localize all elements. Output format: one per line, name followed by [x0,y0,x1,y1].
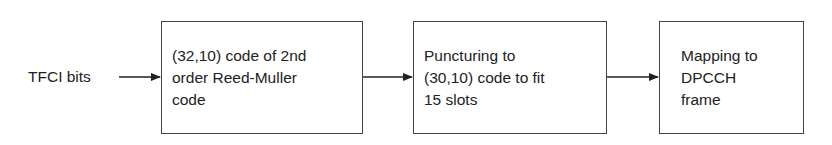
block-3-line-3: frame [681,89,758,111]
block-2-line-2: (30,10) code to fit [424,67,545,89]
block-3-line-2: DPCCH [681,67,758,89]
block-2-line-3: 15 slots [424,89,545,111]
block-2-line-1: Puncturing to [424,45,545,67]
block-3-line-1: Mapping to [681,45,758,67]
block-dpcch-mapping: Mapping to DPCCH frame [659,21,804,134]
block-1-line-2: order Reed-Muller [172,67,306,89]
block-1-line-1: (32,10) code of 2nd [172,45,306,67]
block-reed-muller-encoder: (32,10) code of 2nd order Reed-Muller co… [161,21,363,134]
block-puncturing: Puncturing to (30,10) code to fit 15 slo… [413,21,607,134]
block-1-line-3: code [172,89,306,111]
